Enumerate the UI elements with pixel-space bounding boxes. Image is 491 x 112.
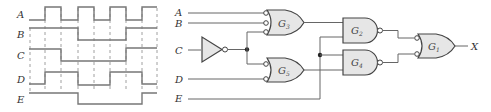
inverter-bubble [223, 47, 228, 52]
waveform-a [29, 7, 157, 20]
timing-diagram: A B C D E [16, 7, 157, 105]
logic-diagram: A B C D E A B C D E [0, 0, 491, 112]
input-label-a: A [174, 7, 182, 18]
signal-label-e: E [16, 94, 25, 105]
waveform-e [29, 93, 157, 104]
input-label-b: B [174, 18, 182, 29]
gate-g1: G1 [415, 34, 455, 58]
inverter-gate [202, 37, 228, 62]
gate-g2: G2 [343, 18, 383, 43]
signal-label-a: A [16, 9, 24, 20]
output-label-x: X [470, 41, 479, 52]
signal-label-c: C [17, 50, 25, 61]
wire-e [188, 55, 320, 99]
waveform-c [29, 48, 157, 61]
input-label-d: D [174, 74, 183, 85]
gate-g3: G3 [264, 10, 304, 35]
input-label-c: C [175, 45, 183, 56]
signal-label-d: D [16, 74, 25, 85]
logic-circuit: A B C D E G3 G5 [174, 7, 479, 104]
waveform-b [29, 28, 157, 40]
signal-label-b: B [16, 29, 24, 40]
gate-g4: G4 [343, 50, 383, 75]
waveform-d [29, 72, 157, 85]
gate-g5: G5 [264, 58, 304, 82]
input-label-e: E [174, 93, 183, 104]
